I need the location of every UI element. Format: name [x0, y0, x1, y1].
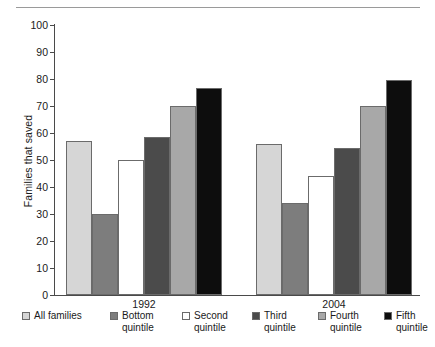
y-axis-tick-label: 70 [36, 100, 48, 112]
bar [282, 203, 308, 295]
legend-label: Second quintile [194, 310, 228, 333]
y-axis-tick-label: 20 [36, 235, 48, 247]
plot-area: 0102030405060708090100 [54, 25, 420, 295]
y-axis-tick-label: 90 [36, 46, 48, 58]
x-axis-group-label: 1992 [66, 298, 222, 310]
bar [92, 214, 118, 295]
legend-swatch-icon [318, 312, 326, 320]
bar [66, 141, 92, 295]
y-axis-tick-mark [50, 160, 54, 161]
legend-item[interactable]: Bottom quintile [110, 310, 154, 333]
y-axis-title: Families that saved [22, 81, 34, 241]
bar [118, 160, 144, 295]
legend-swatch-icon [182, 312, 190, 320]
chart-legend: All familiesBottom quintileSecond quinti… [22, 310, 422, 342]
legend-label: Fifth quintile [396, 310, 428, 333]
bar [196, 88, 222, 295]
legend-label: Bottom quintile [122, 310, 154, 333]
legend-label: Fourth quintile [330, 310, 362, 333]
y-axis-tick-mark [50, 79, 54, 80]
y-axis-tick-label: 100 [30, 19, 48, 31]
y-axis-tick-mark [50, 268, 54, 269]
y-axis-tick-mark [50, 133, 54, 134]
legend-swatch-icon [384, 312, 392, 320]
bar [144, 137, 170, 295]
y-axis-tick-label: 10 [36, 262, 48, 274]
y-axis-tick-mark [50, 187, 54, 188]
y-axis-tick-mark [50, 52, 54, 53]
bar [334, 148, 360, 295]
x-axis-line [54, 295, 420, 296]
y-axis-tick-label: 80 [36, 73, 48, 85]
y-axis-tick-mark [50, 106, 54, 107]
y-axis-tick-label: 40 [36, 181, 48, 193]
y-axis-tick-mark [50, 241, 54, 242]
top-divider-rule [16, 7, 420, 8]
bar [256, 144, 282, 295]
y-axis-tick-label: 0 [42, 289, 48, 301]
legend-swatch-icon [22, 312, 30, 320]
x-axis-group-label: 2004 [256, 298, 412, 310]
legend-item[interactable]: All families [22, 310, 82, 322]
legend-item[interactable]: Fifth quintile [384, 310, 428, 333]
bar [360, 106, 386, 295]
y-axis-tick-label: 60 [36, 127, 48, 139]
legend-label: All families [34, 310, 82, 322]
y-axis-tick-mark [50, 295, 54, 296]
bar [386, 80, 412, 295]
legend-item[interactable]: Second quintile [182, 310, 228, 333]
legend-swatch-icon [110, 312, 118, 320]
bar-chart-figure: Families that saved 01020304050607080901… [0, 0, 435, 347]
legend-swatch-icon [252, 312, 260, 320]
y-axis-tick-label: 30 [36, 208, 48, 220]
bar [308, 176, 334, 295]
bar [170, 106, 196, 295]
y-axis-tick-mark [50, 214, 54, 215]
legend-item[interactable]: Fourth quintile [318, 310, 362, 333]
legend-item[interactable]: Third quintile [252, 310, 296, 333]
y-axis-tick-mark [50, 25, 54, 26]
legend-label: Third quintile [264, 310, 296, 333]
y-axis-tick-label: 50 [36, 154, 48, 166]
